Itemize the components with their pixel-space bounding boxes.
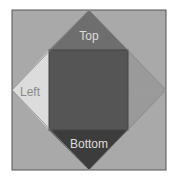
label-bottom: Bottom bbox=[70, 137, 108, 151]
label-right: Right bbox=[134, 85, 163, 99]
label-top: Top bbox=[79, 29, 99, 43]
center-square bbox=[49, 50, 128, 130]
diagram-canvas: Top Left Right Bottom bbox=[0, 0, 178, 180]
diamond-diagram: Top Left Right Bottom bbox=[0, 0, 178, 180]
label-left: Left bbox=[20, 85, 41, 99]
